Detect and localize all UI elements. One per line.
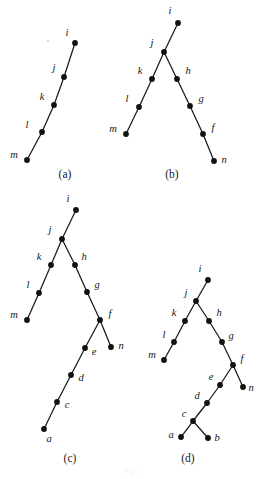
node-d-j[interactable]	[193, 298, 199, 304]
node-d-f[interactable]	[230, 362, 236, 368]
node-label-b-l: l	[126, 93, 129, 104]
node-label-d-l: l	[163, 329, 166, 340]
edge-d-j-k	[185, 301, 196, 321]
node-a-k[interactable]	[51, 102, 57, 108]
node-label-a-j: j	[51, 62, 56, 73]
node-c-j[interactable]	[59, 236, 65, 242]
node-label-a-i: i	[66, 27, 69, 38]
node-label-d-n: n	[248, 382, 253, 393]
node-label-a-l: l	[26, 119, 29, 130]
panels-layer: ijklm(a)ijklmhgfn(b)ijklmhgfnedca(c)ijkl…	[10, 5, 253, 465]
node-b-n[interactable]	[211, 158, 217, 164]
node-c-i[interactable]	[73, 207, 79, 213]
panel-a: ijklm(a)	[10, 27, 78, 181]
edge-b-i-j	[164, 23, 178, 52]
node-d-a[interactable]	[178, 434, 184, 440]
node-label-c-i: i	[67, 193, 70, 204]
node-b-m[interactable]	[123, 131, 129, 137]
edge-c-k-l	[39, 265, 51, 293]
node-label-d-g: g	[228, 330, 233, 341]
node-c-e[interactable]	[82, 345, 88, 351]
node-d-d[interactable]	[204, 400, 210, 406]
node-a-j[interactable]	[61, 74, 67, 80]
node-d-i[interactable]	[205, 277, 211, 283]
figure-bottom-caption: Fig. 1.	[125, 467, 146, 476]
node-label-c-e: e	[92, 346, 97, 357]
node-c-k[interactable]	[48, 262, 54, 268]
node-b-f[interactable]	[200, 131, 206, 137]
edge-c-h-g	[75, 265, 87, 292]
node-b-g[interactable]	[187, 103, 193, 109]
node-c-a[interactable]	[41, 426, 47, 432]
panel-b-nodes: ijklmhgfn	[109, 5, 226, 165]
tree-diagram-canvas: ijklm(a)ijklmhgfn(b)ijklmhgfnedca(c)ijkl…	[0, 0, 270, 479]
node-label-c-c: c	[65, 399, 70, 410]
node-label-b-h: h	[185, 65, 190, 76]
node-label-b-m: m	[109, 123, 117, 134]
node-d-b[interactable]	[205, 435, 211, 441]
node-c-n[interactable]	[108, 344, 114, 350]
node-a-l[interactable]	[39, 129, 45, 135]
edge-d-l-m	[164, 342, 174, 360]
node-label-d-k: k	[172, 307, 177, 318]
edge-c-j-k	[51, 239, 62, 265]
node-label-d-d: d	[194, 390, 200, 401]
node-d-k[interactable]	[182, 318, 188, 324]
node-b-k[interactable]	[149, 76, 155, 82]
panel-d-edges	[164, 280, 243, 438]
figure-root: ijklm(a)ijklmhgfn(b)ijklmhgfnedca(c)ijkl…	[0, 0, 270, 479]
panel-a-nodes: ijklm	[10, 27, 78, 163]
edge-a-l-m	[27, 132, 42, 160]
node-c-f[interactable]	[97, 317, 103, 323]
node-label-c-k: k	[37, 251, 42, 262]
edge-d-d-c	[193, 403, 207, 421]
panel-d: ijklmhgfnedcab(d)	[148, 263, 253, 465]
panel-caption-c: (c)	[64, 452, 77, 465]
node-label-d-i: i	[199, 263, 202, 274]
node-d-m[interactable]	[161, 357, 167, 363]
node-c-c[interactable]	[54, 399, 60, 405]
node-label-b-i: i	[169, 5, 172, 16]
node-d-h[interactable]	[206, 318, 212, 324]
node-label-c-n: n	[118, 340, 123, 351]
node-label-c-m: m	[10, 309, 18, 320]
node-label-a-m: m	[10, 149, 18, 160]
node-label-c-h: h	[81, 251, 86, 262]
node-d-n[interactable]	[240, 384, 246, 390]
edge-d-c-b	[193, 421, 208, 438]
panel-c: ijklmhgfnedca(c)	[10, 193, 123, 465]
edge-d-h-g	[209, 321, 222, 342]
node-label-c-g: g	[94, 279, 99, 290]
node-d-g[interactable]	[219, 339, 225, 345]
node-b-l[interactable]	[136, 104, 142, 110]
node-a-m[interactable]	[24, 157, 30, 163]
node-d-l[interactable]	[171, 339, 177, 345]
node-c-g[interactable]	[84, 289, 90, 295]
edge-b-h-g	[177, 79, 190, 106]
edge-c-f-e	[85, 320, 100, 348]
node-label-b-n: n	[221, 154, 226, 165]
node-c-l[interactable]	[36, 290, 42, 296]
node-b-j[interactable]	[161, 49, 167, 55]
node-c-d[interactable]	[68, 372, 74, 378]
node-c-m[interactable]	[24, 317, 30, 323]
edge-c-j-h	[62, 239, 75, 265]
edge-c-f-n	[100, 320, 111, 347]
panel-caption-b: (b)	[165, 168, 179, 181]
node-b-h[interactable]	[174, 76, 180, 82]
node-d-e[interactable]	[217, 382, 223, 388]
edge-c-d-c	[57, 375, 71, 402]
node-d-c[interactable]	[190, 418, 196, 424]
node-b-i[interactable]	[175, 20, 181, 26]
node-label-c-j: j	[47, 224, 52, 235]
edge-d-g-f	[222, 342, 233, 365]
node-c-h[interactable]	[72, 262, 78, 268]
node-label-b-j: j	[149, 37, 154, 48]
edge-b-g-f	[190, 106, 203, 134]
panel-caption-d: (d)	[181, 452, 195, 465]
edge-d-c-a	[181, 421, 193, 437]
edge-c-i-j	[62, 210, 76, 239]
edge-c-c-a	[44, 402, 57, 429]
node-label-c-d: d	[78, 372, 84, 383]
node-a-i[interactable]	[72, 40, 78, 46]
